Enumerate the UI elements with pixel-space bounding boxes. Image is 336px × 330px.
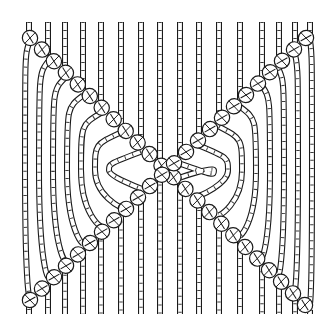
cord-left-middle-2 bbox=[53, 78, 65, 261]
cord-left-middle-0 bbox=[25, 43, 29, 295]
cord-left-middle-6 bbox=[109, 152, 141, 189]
cord-right-middle-7 bbox=[310, 40, 312, 304]
macrame-illustration bbox=[0, 0, 336, 330]
cord-right-middle-4 bbox=[262, 86, 270, 257]
macrame-knot-drawing bbox=[0, 0, 336, 330]
cord-right-middle-5 bbox=[279, 70, 284, 274]
cord-left-middle-1 bbox=[39, 61, 48, 276]
cord-right-middle-6 bbox=[295, 54, 298, 289]
cord-right-middle-0 bbox=[180, 164, 214, 178]
